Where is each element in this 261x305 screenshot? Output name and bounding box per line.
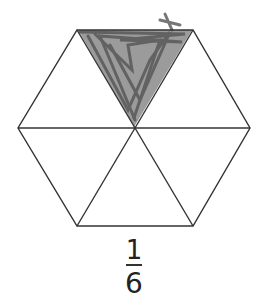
fraction-numerator: 1: [118, 236, 150, 264]
hexagon-fraction-diagram: [0, 0, 261, 230]
fraction-bar: [126, 264, 142, 266]
shaded-triangle: [78, 14, 192, 127]
fraction-denominator: 6: [118, 268, 150, 300]
